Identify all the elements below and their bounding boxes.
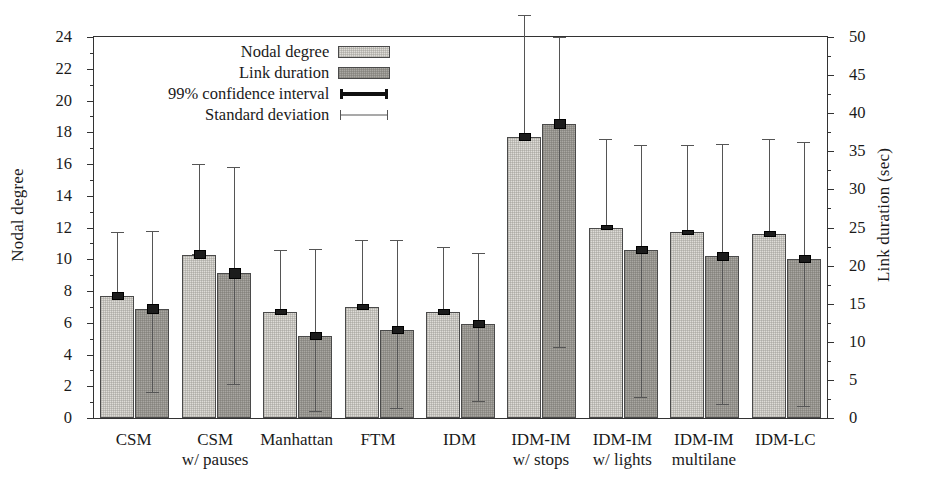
y-axis-left-tick-label: 2 xyxy=(64,376,72,396)
confidence-interval-marker xyxy=(764,231,776,237)
standard-deviation-cap-bottom xyxy=(716,404,729,405)
confidence-interval-marker xyxy=(229,268,241,279)
standard-deviation-cap-top xyxy=(762,139,775,140)
standard-deviation-line xyxy=(117,232,118,296)
standard-deviation-line xyxy=(199,164,200,254)
y-axis-left-tick xyxy=(87,69,94,70)
confidence-interval-marker xyxy=(438,309,450,315)
legend-swatch-link-duration xyxy=(338,67,390,79)
standard-deviation-line xyxy=(641,145,642,396)
standard-deviation-line xyxy=(443,247,444,312)
y-axis-right-tick xyxy=(827,37,834,38)
standard-deviation-line xyxy=(559,37,560,347)
legend-item-standard-deviation: Standard deviation xyxy=(168,105,390,125)
legend-marker-confidence-interval xyxy=(338,88,390,100)
y-axis-right-minor-tick xyxy=(827,399,831,400)
x-axis-category-label-line1: Manhattan xyxy=(260,430,333,449)
confidence-interval-marker xyxy=(682,230,694,236)
x-axis-category-label-line1: IDM-LC xyxy=(755,430,815,449)
x-axis-category-label-line2: w/ lights xyxy=(582,450,663,470)
bar-nodal-degree xyxy=(345,307,379,418)
legend-label-confidence-interval: 99% confidence interval xyxy=(168,84,338,104)
legend-label-link-duration: Link duration xyxy=(239,63,338,83)
bar-nodal-degree xyxy=(426,312,460,418)
confidence-interval-marker xyxy=(112,292,124,300)
y-axis-left-tick-label: 0 xyxy=(64,408,72,428)
x-axis-category-label: CSMw/ pauses xyxy=(174,430,255,470)
confidence-interval-marker xyxy=(392,326,404,334)
standard-deviation-cap-bottom xyxy=(472,401,485,402)
standard-deviation-line xyxy=(362,240,363,307)
y-axis-left-tick-label: 6 xyxy=(64,312,72,332)
standard-deviation-line xyxy=(606,139,607,228)
standard-deviation-cap-bottom xyxy=(797,406,810,407)
legend-label-standard-deviation: Standard deviation xyxy=(205,105,338,125)
standard-deviation-line xyxy=(397,240,398,408)
y-axis-left-tick xyxy=(87,291,94,292)
standard-deviation-cap-top xyxy=(797,142,810,143)
y-axis-right-minor-tick xyxy=(827,170,831,171)
x-axis-category-label: IDM-IMw/ lights xyxy=(582,430,663,470)
x-axis-category-label-line1: IDM-IM xyxy=(674,430,734,449)
standard-deviation-cap-top xyxy=(390,240,403,241)
x-axis-category-label-line1: IDM xyxy=(443,430,476,449)
standard-deviation-line xyxy=(722,144,723,404)
y-axis-left-minor-tick xyxy=(90,180,94,181)
x-axis-category-label-line1: CSM xyxy=(116,430,152,449)
standard-deviation-cap-top xyxy=(274,250,287,251)
standard-deviation-cap-bottom xyxy=(390,408,403,409)
x-axis-category-label: IDM-LC xyxy=(745,430,826,450)
confidence-interval-marker xyxy=(357,304,369,310)
y-axis-left-tick-label: 18 xyxy=(56,122,73,142)
standard-deviation-cap-top xyxy=(111,232,124,233)
bar-nodal-degree xyxy=(182,255,216,419)
x-axis-category-label-line2: multilane xyxy=(663,450,744,470)
standard-deviation-cap-top xyxy=(146,231,159,232)
y-axis-left-title: Nodal degree xyxy=(8,135,28,295)
y-axis-right-tick xyxy=(827,189,834,190)
x-axis-category-label-line2: w/ pauses xyxy=(174,450,255,470)
legend-item-confidence-interval: 99% confidence interval xyxy=(168,84,390,104)
bar-nodal-degree xyxy=(752,234,786,418)
bar-nodal-degree xyxy=(589,228,623,419)
legend-item-nodal-degree: Nodal degree xyxy=(168,42,390,62)
standard-deviation-line xyxy=(315,249,316,411)
x-axis-category-label-line1: IDM-IM xyxy=(511,430,571,449)
y-axis-right-tick-label: 30 xyxy=(849,179,866,199)
x-axis-category-label-line1: CSM xyxy=(197,430,233,449)
bar-nodal-degree xyxy=(507,137,541,418)
y-axis-left-minor-tick xyxy=(90,85,94,86)
bar-nodal-degree xyxy=(263,312,297,418)
y-axis-right-minor-tick xyxy=(827,132,831,133)
y-axis-left-minor-tick xyxy=(90,243,94,244)
y-axis-right-tick xyxy=(827,151,834,152)
y-axis-right-tick xyxy=(827,266,834,267)
y-axis-left-minor-tick xyxy=(90,148,94,149)
standard-deviation-cap-bottom xyxy=(309,411,322,412)
x-axis-category-label-line1: IDM-IM xyxy=(593,430,653,449)
y-axis-left-tick-label: 14 xyxy=(56,185,73,205)
x-axis-category-label: IDM xyxy=(419,430,500,450)
y-axis-left-minor-tick xyxy=(90,275,94,276)
y-axis-left-tick-label: 24 xyxy=(56,27,73,47)
y-axis-left-minor-tick xyxy=(90,370,94,371)
standard-deviation-cap-top xyxy=(716,144,729,145)
confidence-interval-marker xyxy=(519,133,531,141)
y-axis-left-tick-label: 8 xyxy=(64,281,72,301)
legend-swatch-nodal-degree xyxy=(338,46,390,58)
x-axis-category-label: CSM xyxy=(93,430,174,450)
confidence-interval-marker xyxy=(717,252,729,260)
standard-deviation-cap-top xyxy=(437,247,450,248)
standard-deviation-cap-bottom xyxy=(146,392,159,393)
y-axis-left-tick xyxy=(87,37,94,38)
standard-deviation-line xyxy=(687,145,688,232)
y-axis-left-tick xyxy=(87,164,94,165)
x-axis-category-label-line1: FTM xyxy=(361,430,396,449)
y-axis-right-tick xyxy=(827,304,834,305)
confidence-interval-marker xyxy=(601,225,613,231)
y-axis-right-tick-label: 35 xyxy=(849,141,866,161)
y-axis-right-tick xyxy=(827,228,834,229)
y-axis-right-minor-tick xyxy=(827,247,831,248)
standard-deviation-line xyxy=(280,250,281,312)
y-axis-right-tick xyxy=(827,113,834,114)
